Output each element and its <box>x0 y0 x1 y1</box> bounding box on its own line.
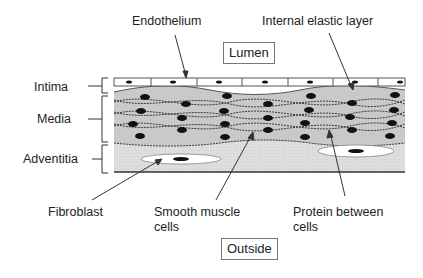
layer-brackets <box>88 78 108 173</box>
endothelium-layer <box>114 78 405 86</box>
media-layer <box>114 86 405 147</box>
artery-wall-diagram <box>0 0 423 278</box>
